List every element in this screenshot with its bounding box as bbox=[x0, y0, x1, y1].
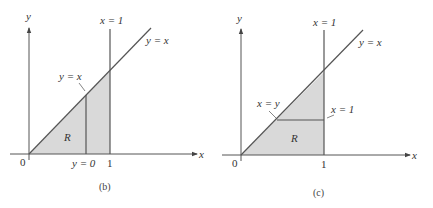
figure: y x 0 1 x = 1 y = x y = x y = 0 R (b) y … bbox=[0, 0, 433, 208]
inner-lower-label-b: y = 0 bbox=[71, 157, 96, 169]
leader-line-b bbox=[79, 83, 85, 91]
y-axis-label-c: y bbox=[236, 12, 242, 24]
y-eq-x-label-b: y = x bbox=[145, 34, 169, 46]
panel-b: y x 0 1 x = 1 y = x y = x y = 0 R (b) bbox=[10, 10, 204, 193]
origin-label-c: 0 bbox=[232, 157, 238, 169]
caption-c: (c) bbox=[313, 187, 324, 199]
region-label-c: R bbox=[290, 132, 298, 144]
panel-c: y x 0 1 x = 1 y = x x = y x = 1 R (c) bbox=[222, 12, 417, 199]
origin-label-b: 0 bbox=[20, 156, 26, 168]
tick-1-label-b: 1 bbox=[107, 157, 113, 169]
inner-right-label-c: x = 1 bbox=[330, 103, 354, 115]
x-axis-label-c: x bbox=[411, 149, 417, 161]
tick-1-label-c: 1 bbox=[321, 158, 327, 170]
leader-line-right-c bbox=[327, 115, 334, 118]
x-eq-1-label-c: x = 1 bbox=[312, 16, 336, 28]
inner-left-label-c: x = y bbox=[256, 97, 280, 109]
region-label-b: R bbox=[63, 131, 71, 143]
y-eq-x-label-c: y = x bbox=[358, 36, 382, 48]
x-axis-label-b: x bbox=[198, 148, 204, 160]
caption-b: (b) bbox=[99, 181, 111, 193]
leader-line-left-c bbox=[269, 111, 276, 118]
inner-upper-label-b: y = x bbox=[58, 70, 82, 82]
y-axis-label-b: y bbox=[25, 10, 31, 22]
x-eq-1-label-b: x = 1 bbox=[99, 14, 123, 26]
